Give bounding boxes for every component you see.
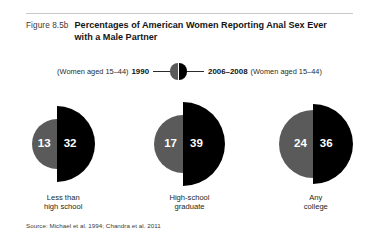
- category-label-high-school-graduate: High-school graduate: [126, 193, 252, 212]
- category-label-any-college: Any college: [253, 193, 379, 212]
- category-line-1: Any: [253, 193, 379, 202]
- value-label-2006-2008: 36: [320, 138, 333, 150]
- figure-number: Figure 8.5b: [26, 20, 69, 30]
- legend-right-year: 2006–2008: [208, 67, 248, 76]
- value-label-1990: 24: [294, 138, 307, 150]
- legend-black-half-icon: [179, 63, 187, 80]
- value-label-2006-2008: 39: [190, 138, 203, 150]
- data-group-less-than-high-school: 13 32: [0, 96, 126, 191]
- category-label-less-than-high-school: Less than high school: [0, 193, 126, 212]
- figure-container: Figure 8.5b Percentages of American Wome…: [0, 0, 379, 251]
- legend-left-note: (Women aged 15–44): [57, 67, 128, 76]
- category-line-2: graduate: [126, 202, 252, 211]
- legend-left-connector: [153, 71, 170, 72]
- gray-half-1990: 24: [279, 110, 313, 178]
- gray-half-1990: 17: [154, 115, 183, 173]
- header-divider: [26, 13, 353, 14]
- figure-header: Figure 8.5b Percentages of American Wome…: [26, 20, 356, 43]
- category-line-1: High-school: [126, 193, 252, 202]
- legend-gray-half-icon: [170, 63, 178, 80]
- gray-half-1990: 13: [32, 119, 57, 169]
- legend-entry-1990: (Women aged 15–44) 1990: [57, 67, 170, 76]
- legend-split-circle-icon: [170, 63, 187, 80]
- data-group-any-college: 24 36: [253, 96, 379, 191]
- category-line-2: high school: [0, 202, 126, 211]
- legend-entry-2006-2008: 2006–2008 (Women aged 15–44): [187, 67, 322, 76]
- black-half-2006-2008: 32: [57, 106, 95, 182]
- half-circle-pair: 24 36: [241, 96, 379, 191]
- category-axis-labels: Less than high school High-school gradua…: [0, 193, 379, 212]
- value-label-2006-2008: 32: [64, 138, 77, 150]
- black-half-shape: [313, 104, 353, 184]
- value-label-1990: 17: [164, 138, 177, 150]
- legend-left-year: 1990: [131, 67, 149, 76]
- category-line-1: Less than: [0, 193, 126, 202]
- legend-right-connector: [187, 71, 204, 72]
- category-line-2: college: [253, 202, 379, 211]
- chart-legend: (Women aged 15–44) 1990 2006–2008 (Women…: [0, 63, 379, 80]
- data-group-high-school-graduate: 17 39: [126, 96, 252, 191]
- black-half-2006-2008: 36: [313, 104, 353, 184]
- value-label-1990: 13: [38, 138, 51, 150]
- chart-plot-area: 13 32 17 39: [0, 96, 379, 191]
- legend-right-note: (Women aged 15–44): [251, 67, 322, 76]
- black-half-2006-2008: 39: [183, 102, 225, 186]
- source-note: Source: Michael et al. 1994; Chandra et …: [26, 222, 161, 229]
- figure-title: Percentages of American Women Reporting …: [75, 20, 343, 43]
